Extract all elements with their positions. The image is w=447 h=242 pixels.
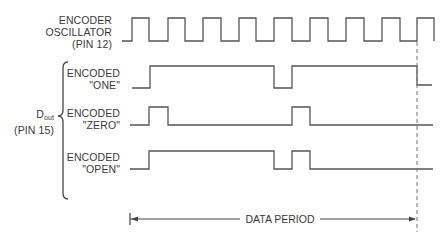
timing-diagram: DATA PERIOD [0, 0, 447, 242]
oscillator-waveform [122, 18, 434, 41]
dout-brace [58, 62, 68, 199]
encoded-zero-waveform [130, 107, 433, 125]
arrow-right-icon [409, 217, 416, 222]
encoded-one-waveform [132, 66, 432, 88]
encoded-open-waveform [130, 151, 433, 169]
data-period-label: DATA PERIOD [245, 213, 314, 225]
arrow-left-icon [131, 217, 138, 222]
